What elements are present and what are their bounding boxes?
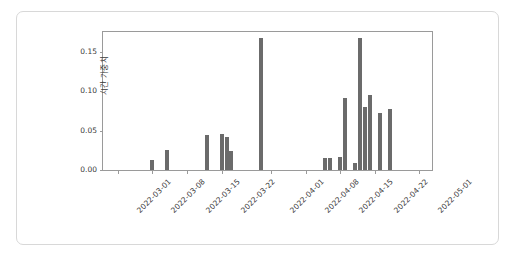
bar — [323, 158, 327, 170]
bar — [363, 107, 367, 170]
bar — [205, 135, 209, 170]
x-tick-label: 2022-04-15 — [357, 177, 395, 215]
bar — [338, 157, 342, 170]
y-tick-label: 0.15 — [80, 47, 97, 56]
x-tick-mark — [271, 170, 272, 174]
y-tick-label: 0.10 — [80, 86, 97, 95]
bar — [378, 113, 382, 170]
bar — [225, 137, 229, 170]
x-tick-mark — [222, 170, 223, 174]
bar — [388, 109, 392, 170]
x-tick-mark — [187, 170, 188, 174]
x-tick-label: 2022-04-22 — [392, 177, 430, 215]
x-tick-label: 2022-03-15 — [204, 177, 242, 215]
x-tick-mark — [152, 170, 153, 174]
x-tick-label: 2022-03-08 — [169, 177, 207, 215]
x-tick-label: 2022-04-08 — [323, 177, 361, 215]
bar — [328, 158, 332, 170]
bar — [220, 134, 224, 170]
x-tick-label: 2022-03-01 — [135, 177, 173, 215]
x-tick-mark — [375, 170, 376, 174]
bar — [368, 95, 372, 170]
bar — [358, 38, 362, 170]
bar — [229, 151, 233, 170]
bar — [343, 98, 347, 170]
x-tick-label: 2022-04-01 — [288, 177, 326, 215]
bar — [259, 38, 263, 170]
bar — [165, 150, 169, 170]
x-tick-mark — [419, 170, 420, 174]
plot-area: 시간 가중치 0.000.050.100.15 2022-03-012022-0… — [102, 31, 433, 171]
bar-series — [103, 32, 432, 170]
y-tick-mark — [100, 170, 103, 171]
y-tick-label: 0.00 — [80, 165, 97, 174]
bar — [353, 163, 357, 170]
figure-card: 시간 가중치 0.000.050.100.15 2022-03-012022-0… — [16, 11, 499, 245]
x-tick-mark — [306, 170, 307, 174]
x-tick-mark — [340, 170, 341, 174]
x-tick-label: 2022-05-01 — [436, 177, 474, 215]
x-tick-label: 2022-03-22 — [239, 177, 277, 215]
bar — [150, 160, 154, 170]
x-tick-mark — [118, 170, 119, 174]
y-tick-label: 0.05 — [80, 126, 97, 135]
